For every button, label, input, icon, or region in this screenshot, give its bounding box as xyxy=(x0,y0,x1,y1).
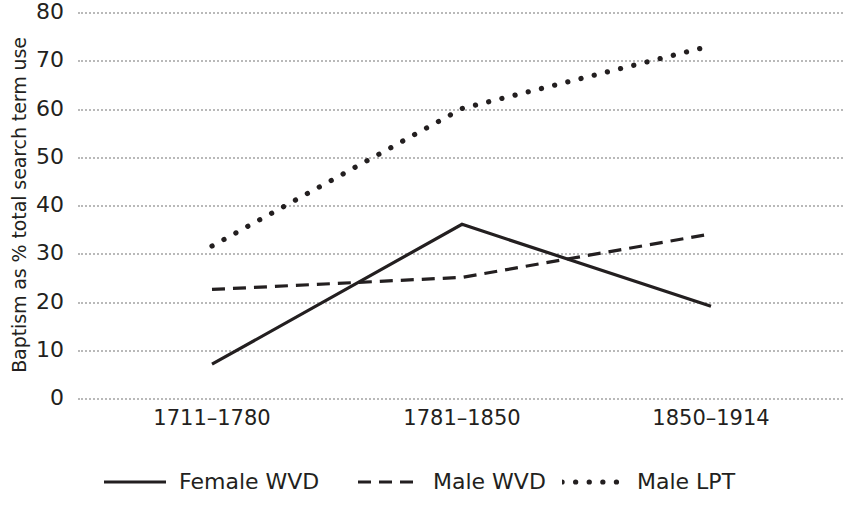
y-axis-tick-label: 80 xyxy=(4,1,64,23)
x-axis-tick-labels: 1711–17801781–18501850–1914 xyxy=(78,408,843,442)
chart-legend: Female WVDMale WVDMale LPT xyxy=(0,462,843,506)
plot-area xyxy=(78,12,843,398)
legend-label: Male WVD xyxy=(433,471,546,493)
y-axis-tick-label: 10 xyxy=(4,339,64,361)
gridline xyxy=(78,398,843,400)
y-axis-tick-label: 50 xyxy=(4,146,64,168)
legend-label: Male LPT xyxy=(637,471,735,493)
y-axis-tick-label: 60 xyxy=(4,98,64,120)
legend-swatch-dotted-line-icon xyxy=(562,475,624,489)
x-axis-tick-label: 1711–1780 xyxy=(153,408,270,429)
chart-figure: Baptism as % total search term use 80706… xyxy=(0,0,843,506)
legend-label: Female WVD xyxy=(179,471,319,493)
x-axis-tick-label: 1781–1850 xyxy=(403,408,520,429)
y-axis-tick-label: 0 xyxy=(4,387,64,409)
series-line-female-wvd xyxy=(212,224,711,364)
legend-item-female-wvd[interactable]: Female WVD xyxy=(104,462,319,502)
y-axis-tick-label: 70 xyxy=(4,49,64,71)
series-line-male-lpt xyxy=(212,46,711,246)
legend-item-male-lpt[interactable]: Male LPT xyxy=(562,462,735,502)
y-axis-tick-label: 40 xyxy=(4,194,64,216)
y-axis-tick-label: 30 xyxy=(4,242,64,264)
legend-item-male-wvd[interactable]: Male WVD xyxy=(358,462,546,502)
x-axis-tick-label: 1850–1914 xyxy=(652,408,769,429)
series-plot xyxy=(78,12,843,398)
legend-swatch-solid-line-icon xyxy=(104,475,166,489)
y-axis-tick-label: 20 xyxy=(4,291,64,313)
legend-swatch-dashed-line-icon xyxy=(358,475,420,489)
